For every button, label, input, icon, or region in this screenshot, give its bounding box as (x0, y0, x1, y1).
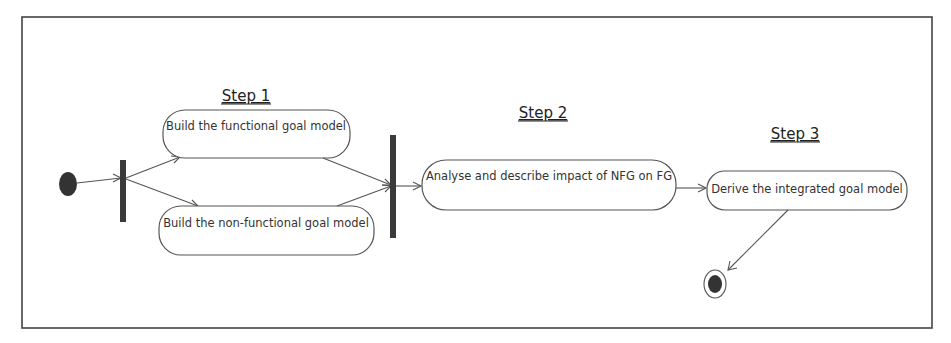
activity-derive-integrated-goal-model: Derive the integrated goal model (707, 171, 907, 210)
join-bar (390, 135, 396, 238)
initial-node (59, 172, 77, 196)
final-node (704, 270, 726, 298)
activity-box (163, 110, 350, 158)
activity-build-non-functional-goal-model: Build the non-functional goal model (159, 206, 374, 255)
edge-fork-a2 (126, 179, 198, 206)
edge-fork-a1 (126, 157, 180, 178)
edge-a4-final (728, 210, 788, 270)
activity-box (422, 160, 676, 210)
activity-label: Analyse and describe impact of NFG on FG (426, 169, 672, 183)
activity-label: Build the functional goal model (166, 119, 346, 133)
activity-label: Derive the integrated goal model (711, 182, 903, 196)
activity-box (159, 206, 374, 255)
activity-analyse-impact: Analyse and describe impact of NFG on FG (422, 160, 676, 210)
final-node-dot (708, 275, 722, 293)
activity-diagram: Step 1 Step 2 Step 3 Build the functiona… (0, 0, 951, 343)
step-3-label: Step 3 (771, 125, 819, 143)
edge-start-fork (77, 178, 121, 183)
activity-build-functional-goal-model: Build the functional goal model (163, 110, 350, 158)
step-1-label: Step 1 (222, 87, 270, 105)
fork-bar (120, 160, 126, 222)
edge-a1-join (323, 158, 391, 185)
edge-a2-join (337, 186, 391, 206)
activity-label: Build the non-functional goal model (163, 216, 369, 230)
step-2-label: Step 2 (519, 104, 567, 122)
